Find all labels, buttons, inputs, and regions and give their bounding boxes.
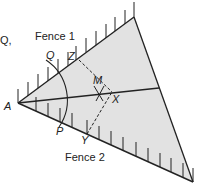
- label-Q: Q: [46, 49, 55, 61]
- label-fence-1: Fence 1: [35, 30, 75, 42]
- label-P: P: [56, 125, 64, 137]
- label-A: A: [3, 100, 11, 112]
- label-Y: Y: [81, 134, 89, 146]
- label-Z: Z: [67, 50, 76, 62]
- label-X: X: [111, 93, 120, 105]
- label-stray-q: Q,: [0, 34, 12, 46]
- fence-diagram: Q, Fence 1 Fence 2 A Q Z M X P Y: [0, 0, 199, 184]
- label-M: M: [93, 74, 103, 86]
- label-fence-2: Fence 2: [65, 151, 105, 163]
